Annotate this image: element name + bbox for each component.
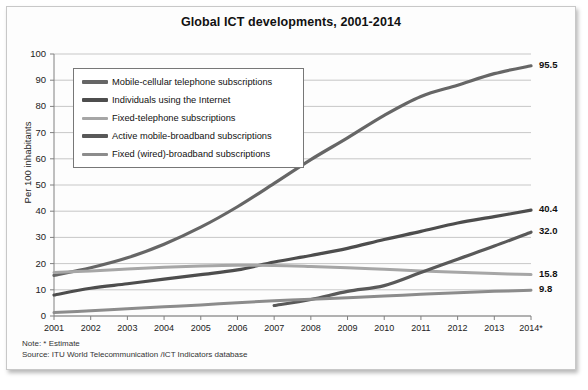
x-axis-tick-label: 2012 xyxy=(441,323,475,333)
footnote-note: Note: * Estimate xyxy=(22,338,247,349)
legend-swatch-icon xyxy=(82,98,108,102)
legend-item-fixed-telephone[interactable]: Fixed-telephone subscriptions xyxy=(74,109,303,127)
series-end-label-0: 95.5 xyxy=(539,59,558,70)
x-axis-tick-label: 2014* xyxy=(514,323,548,333)
series-end-label-2: 15.8 xyxy=(539,268,558,279)
legend-label: Fixed-telephone subscriptions xyxy=(112,113,236,123)
series-line-1 xyxy=(54,210,531,295)
legend-label: Individuals using the Internet xyxy=(112,95,230,105)
x-axis-tick-label: 2006 xyxy=(220,323,254,333)
y-axis-tick-label: 60 xyxy=(20,153,46,164)
y-axis-tick-label: 100 xyxy=(20,48,46,59)
x-axis-tick-label: 2009 xyxy=(331,323,365,333)
y-axis-tick-label: 10 xyxy=(20,284,46,295)
legend-swatch-icon xyxy=(82,153,108,156)
x-axis-tick-label: 2001 xyxy=(37,323,71,333)
legend-swatch-icon xyxy=(82,117,108,120)
x-axis-tick-label: 2008 xyxy=(294,323,328,333)
legend-item-fixed-broadband[interactable]: Fixed (wired)-broadband subscriptions xyxy=(74,145,303,163)
y-axis-tick-label: 50 xyxy=(20,179,46,190)
series-end-label-1: 40.4 xyxy=(539,203,558,214)
legend-item-active-mobile-broadband[interactable]: Active mobile-broadband subscriptions xyxy=(74,127,303,145)
series-end-label-3: 32.0 xyxy=(539,225,558,236)
chart-legend: Mobile-cellular telephone subscriptions … xyxy=(73,68,304,168)
x-axis-tick-label: 2003 xyxy=(110,323,144,333)
legend-label: Mobile-cellular telephone subscriptions xyxy=(112,77,272,87)
legend-swatch-icon xyxy=(82,134,108,138)
footnotes: Note: * Estimate Source: ITU World Telec… xyxy=(22,338,247,360)
y-axis-tick-label: 90 xyxy=(20,74,46,85)
y-axis-tick-label: 80 xyxy=(20,100,46,111)
legend-label: Active mobile-broadband subscriptions xyxy=(112,131,272,141)
series-line-4 xyxy=(54,290,531,312)
footnote-source: Source: ITU World Telecommunication /ICT… xyxy=(22,349,247,360)
x-axis-tick-label: 2010 xyxy=(367,323,401,333)
chart-svg xyxy=(7,7,577,371)
y-axis-tick-label: 0 xyxy=(20,310,46,321)
legend-item-mobile-cellular[interactable]: Mobile-cellular telephone subscriptions xyxy=(74,73,303,91)
series-end-label-4: 9.8 xyxy=(539,283,552,294)
series-line-2 xyxy=(54,265,531,274)
x-axis-tick-label: 2004 xyxy=(147,323,181,333)
y-axis-tick-label: 30 xyxy=(20,231,46,242)
plot-area: Per 100 inhabitants 01020304050607080901… xyxy=(7,7,577,371)
y-axis-tick-label: 40 xyxy=(20,205,46,216)
legend-item-internet-users[interactable]: Individuals using the Internet xyxy=(74,91,303,109)
x-axis-tick-label: 2005 xyxy=(184,323,218,333)
x-axis-tick-label: 2011 xyxy=(404,323,438,333)
legend-swatch-icon xyxy=(82,80,108,84)
y-axis-tick-label: 70 xyxy=(20,127,46,138)
chart-figure: Global ICT developments, 2001-2014 Per 1… xyxy=(6,6,576,370)
x-axis-tick-label: 2002 xyxy=(74,323,108,333)
y-axis-tick-label: 20 xyxy=(20,258,46,269)
x-axis-tick-label: 2013 xyxy=(477,323,511,333)
legend-label: Fixed (wired)-broadband subscriptions xyxy=(112,149,270,159)
x-axis-tick-label: 2007 xyxy=(257,323,291,333)
